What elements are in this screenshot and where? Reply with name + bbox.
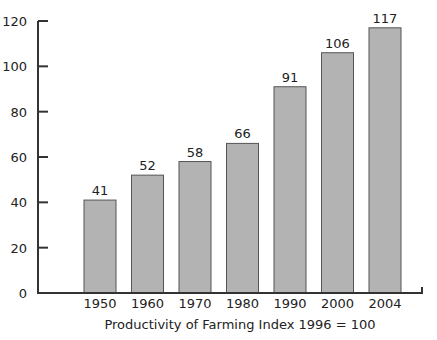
bar-value-label: 106 — [325, 36, 350, 51]
bar-1990 — [274, 87, 306, 293]
x-axis-label: Productivity of Farming Index 1996 = 100 — [104, 317, 375, 332]
bar-1980 — [227, 143, 259, 293]
x-tick-label: 1970 — [178, 296, 211, 311]
y-tick-label: 60 — [10, 150, 27, 165]
x-tick-label: 1960 — [131, 296, 164, 311]
x-tick-label: 1950 — [83, 296, 116, 311]
bar-1960 — [132, 175, 164, 293]
bars: 4152586691106117 — [84, 11, 401, 293]
bar-chart: 020406080100120 4152586691106117 1950196… — [0, 0, 437, 340]
bar-2004 — [369, 28, 401, 293]
x-tick-label: 2004 — [368, 296, 401, 311]
bar-value-label: 58 — [187, 145, 204, 160]
y-tick-label: 40 — [10, 195, 27, 210]
y-tick-label: 120 — [2, 14, 27, 29]
x-tick-label: 1990 — [273, 296, 306, 311]
bar-1950 — [84, 200, 116, 293]
y-axis: 020406080100120 — [2, 14, 48, 301]
y-tick-label: 20 — [10, 241, 27, 256]
bar-1970 — [179, 162, 211, 293]
bar-value-label: 117 — [373, 11, 398, 26]
bar-value-label: 66 — [234, 126, 251, 141]
bar-value-label: 52 — [139, 158, 156, 173]
bar-value-label: 91 — [282, 70, 299, 85]
bar-value-label: 41 — [92, 183, 109, 198]
y-tick-label: 80 — [10, 105, 27, 120]
x-tick-label: 2000 — [321, 296, 354, 311]
bar-2000 — [322, 53, 354, 293]
x-tick-label: 1980 — [226, 296, 259, 311]
y-tick-label: 100 — [2, 59, 27, 74]
y-tick-label: 0 — [19, 286, 27, 301]
